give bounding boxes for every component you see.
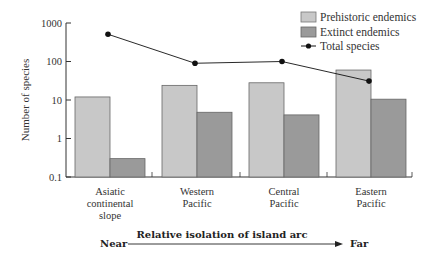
total-species-marker: [366, 78, 372, 84]
legend: Prehistoric endemics Extinct endemics To…: [301, 11, 417, 53]
y-axis: 0.11101001000: [41, 18, 71, 183]
bar-prehistoric-endemics: [162, 85, 197, 177]
legend-swatch-prehistoric: [301, 12, 316, 22]
total-species-marker: [105, 31, 111, 37]
total-species-marker: [279, 59, 285, 65]
category-label: Pacific: [182, 198, 211, 209]
category-label: slope: [99, 210, 122, 221]
isolation-axis-title: Relative isolation of island arc: [137, 229, 308, 240]
bar-extinct-endemics: [284, 115, 319, 177]
species-bar-chart: 0.11101001000 AsiaticcontinentalslopeWes…: [0, 0, 431, 259]
category-label: Pacific: [269, 198, 298, 209]
category-label: continental: [87, 198, 134, 209]
bar-prehistoric-endemics: [336, 70, 371, 177]
near-label: Near: [100, 238, 128, 249]
category-label: Pacific: [356, 198, 385, 209]
y-tick-label: 10: [52, 95, 63, 106]
legend-swatch-extinct: [301, 27, 316, 37]
far-label: Far: [350, 238, 369, 249]
bar-extinct-endemics: [371, 99, 406, 177]
legend-label-extinct: Extinct endemics: [320, 26, 400, 38]
y-axis-title: Number of species: [19, 59, 31, 141]
bar-extinct-endemics: [197, 112, 232, 177]
bar-prehistoric-endemics: [249, 83, 284, 177]
category-label: Western: [180, 186, 215, 197]
y-tick-label: 1: [57, 133, 62, 144]
y-tick-label: 100: [46, 56, 62, 67]
isolation-arrow: Relative isolation of island arc Near Fa…: [100, 229, 369, 249]
category-label: Central: [269, 186, 300, 197]
bars: [75, 70, 406, 177]
category-label: Asiatic: [95, 186, 125, 197]
category-labels: AsiaticcontinentalslopeWesternPacificCen…: [87, 186, 388, 221]
y-tick-label: 1000: [41, 18, 62, 29]
legend-marker-total: [306, 43, 311, 48]
legend-label-total: Total species: [320, 40, 380, 53]
y-tick-label: 0.1: [49, 172, 62, 183]
legend-label-prehistoric: Prehistoric endemics: [320, 11, 417, 23]
total-species-marker: [192, 60, 198, 66]
arrow-head-icon: [335, 241, 343, 247]
bar-extinct-endemics: [110, 159, 145, 177]
category-label: Eastern: [355, 186, 387, 197]
bar-prehistoric-endemics: [75, 97, 110, 177]
